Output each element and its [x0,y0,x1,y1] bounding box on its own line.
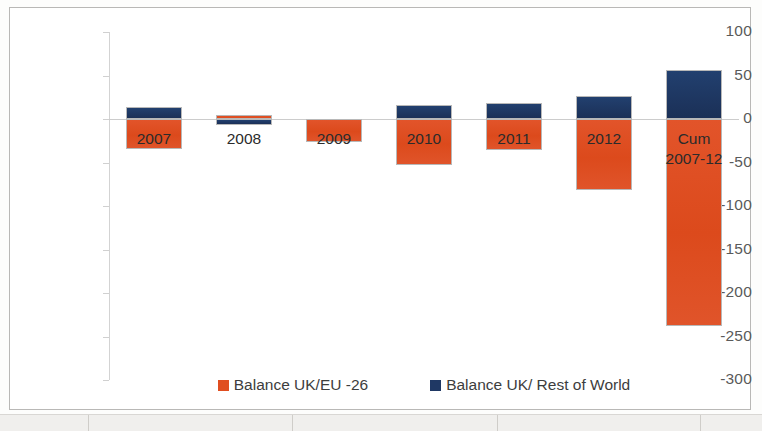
legend-swatch-icon [218,380,229,391]
bar-segment-rest-of-world[interactable] [216,119,272,125]
bar-segment-eu[interactable] [306,119,362,142]
bar-group[interactable] [486,8,542,411]
bar-group[interactable] [126,8,182,411]
bar-group[interactable] [576,8,632,411]
bar-group[interactable] [216,8,272,411]
y-axis-line [109,32,110,380]
paper-notch [292,415,293,431]
paper-notch [88,415,89,431]
bar-segment-eu[interactable] [576,119,632,190]
legend-label: Balance UK/EU -26 [234,376,368,394]
bar-segment-eu[interactable] [666,119,722,326]
chart-legend: Balance UK/EU -26Balance UK/ Rest of Wor… [109,376,739,394]
scanned-page: 100500-50-100-150-200-250-300 2007200820… [0,0,762,431]
bar-segment-rest-of-world[interactable] [666,70,722,119]
bar-group[interactable] [306,8,362,411]
paper-notch [700,415,701,431]
bar-segment-eu[interactable] [126,119,182,149]
chart-frame: 100500-50-100-150-200-250-300 2007200820… [9,7,751,410]
bar-segment-rest-of-world[interactable] [126,107,182,119]
bar-segment-rest-of-world[interactable] [396,105,452,119]
legend-item[interactable]: Balance UK/ Rest of World [430,376,630,394]
y-tick-mark [103,32,109,33]
y-tick-mark [103,250,109,251]
legend-label: Balance UK/ Rest of World [446,376,630,394]
y-tick-mark [103,206,109,207]
y-tick-mark [103,119,109,120]
legend-item[interactable]: Balance UK/EU -26 [218,376,368,394]
y-tick-mark [103,293,109,294]
y-tick-mark [103,163,109,164]
bar-group[interactable] [396,8,452,411]
bar-segment-rest-of-world[interactable] [576,96,632,119]
plot-area: 100500-50-100-150-200-250-300 2007200820… [10,8,752,411]
bar-group[interactable] [666,8,722,411]
bar-segment-eu[interactable] [396,119,452,165]
bar-segment-rest-of-world[interactable] [486,103,542,119]
y-tick-mark [103,337,109,338]
y-tick-mark [103,76,109,77]
legend-swatch-icon [430,380,441,391]
paper-edge [0,414,762,431]
paper-notch [497,415,498,431]
bar-segment-eu[interactable] [486,119,542,150]
